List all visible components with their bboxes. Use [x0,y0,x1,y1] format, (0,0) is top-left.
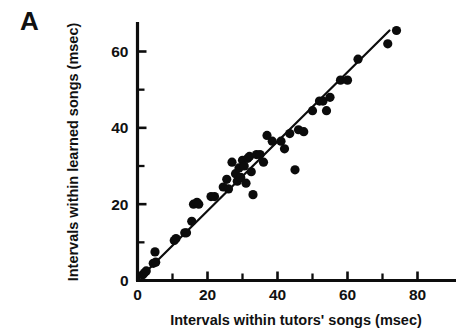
x-axis-tick-labels: 020406080 [133,286,426,303]
x-tick-label: 40 [269,286,286,303]
data-point [248,190,257,199]
data-point [210,192,219,201]
data-point [222,175,231,184]
y-tick-label: 60 [111,43,128,60]
data-point [268,137,277,146]
data-point [325,93,334,102]
x-tick-label: 60 [339,286,356,303]
data-point [182,228,191,237]
y-tick-label: 20 [111,196,128,213]
x-tick-label: 20 [199,286,216,303]
axes [136,22,456,281]
data-point [151,258,160,267]
data-point [285,129,294,138]
data-point [353,55,362,64]
data-point [241,179,250,188]
data-point [171,234,180,243]
data-point [247,167,256,176]
data-point [194,200,203,209]
data-points [138,26,401,279]
data-point [224,184,233,193]
data-point [299,127,308,136]
x-tick-label: 0 [133,286,142,303]
data-point [150,247,159,256]
y-axis-ticks [139,52,147,281]
data-point [259,158,268,167]
data-point [343,76,352,85]
data-point [280,144,289,153]
data-point [187,217,196,226]
data-point [308,106,317,115]
data-point [142,266,151,275]
y-axis-title: Intervals within learned songs (msec) [65,23,81,282]
data-point [290,165,299,174]
figure-panel-a: A 020406080 0204060 Intervals within tut… [0,0,476,335]
scatter-plot: 020406080 0204060 Intervals within tutor… [0,0,476,335]
x-axis-title: Intervals within tutors' songs (msec) [170,312,422,328]
x-tick-label: 80 [409,286,426,303]
data-point [383,39,392,48]
data-point [322,106,331,115]
data-point [392,26,401,35]
x-axis-ticks [138,272,418,280]
y-axis-tick-labels: 0204060 [111,43,128,289]
y-tick-label: 0 [120,272,129,289]
y-tick-label: 40 [111,119,128,136]
